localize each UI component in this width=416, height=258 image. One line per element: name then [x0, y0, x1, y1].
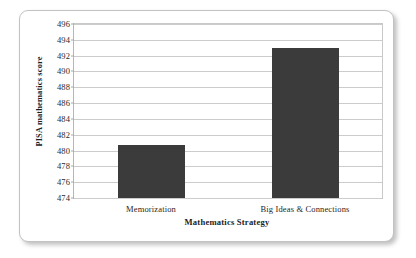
bar-chart: PISA mathematics score 49649449249048848… [20, 11, 395, 243]
gridline [74, 198, 382, 199]
y-tick-mark [71, 87, 74, 88]
y-tick-mark [71, 198, 74, 199]
y-tick-label: 496 [57, 19, 70, 29]
y-tick-mark [71, 134, 74, 135]
y-tick-label: 488 [57, 82, 70, 92]
y-tick-mark [71, 150, 74, 151]
y-tick-label: 494 [57, 35, 70, 45]
gridline [74, 40, 382, 41]
y-tick-mark [71, 103, 74, 104]
y-tick-mark [71, 182, 74, 183]
screenshot-root: PISA mathematics score 49649449249048848… [0, 0, 416, 258]
y-tick-mark [71, 24, 74, 25]
bar[interactable] [272, 48, 339, 198]
plot-area: 496494492490488486484482480478476474Memo… [73, 23, 383, 199]
gridline [74, 24, 382, 25]
y-tick-label: 486 [57, 98, 70, 108]
y-tick-label: 484 [57, 114, 70, 124]
y-tick-mark [71, 118, 74, 119]
bar[interactable] [118, 145, 185, 198]
x-category-label: Big Ideas & Connections [260, 204, 349, 214]
y-tick-label: 474 [57, 193, 70, 203]
figure-card-frame: PISA mathematics score 49649449249048848… [19, 10, 394, 242]
y-tick-label: 478 [57, 161, 70, 171]
y-tick-mark [71, 55, 74, 56]
y-tick-label: 490 [57, 66, 70, 76]
x-category-label: Memorization [126, 204, 176, 214]
y-tick-label: 492 [57, 51, 70, 61]
y-tick-mark [71, 166, 74, 167]
y-tick-label: 482 [57, 130, 70, 140]
y-tick-label: 480 [57, 146, 70, 156]
y-tick-mark [71, 39, 74, 40]
y-tick-mark [71, 71, 74, 72]
y-axis-title: PISA mathematics score [35, 22, 44, 182]
y-tick-label: 476 [57, 177, 70, 187]
x-axis-title: Mathematics Strategy [73, 217, 381, 227]
